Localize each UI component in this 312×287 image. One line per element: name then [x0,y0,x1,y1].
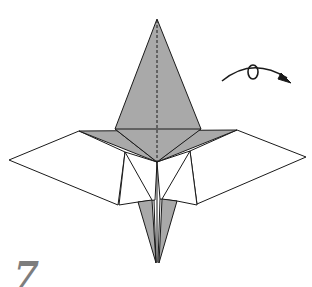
origami-diagram [0,0,312,287]
turn-over-arrow-icon [222,65,291,83]
step-number: 7 [14,256,39,287]
inner-white-panels [119,151,197,262]
